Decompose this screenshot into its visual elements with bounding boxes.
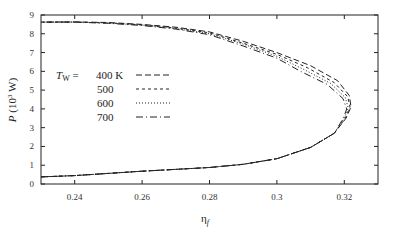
y-tick-label: 1 bbox=[30, 160, 35, 170]
legend-label-700: 700 bbox=[97, 111, 114, 123]
y-tick-label: 0 bbox=[30, 179, 35, 189]
x-tick-label: 0.26 bbox=[134, 192, 150, 202]
y-tick-label: 8 bbox=[30, 29, 35, 39]
x-axis-label: ηf bbox=[201, 212, 211, 227]
x-tick-label: 0.24 bbox=[67, 192, 83, 202]
legend-title: TW = bbox=[56, 69, 79, 83]
y-tick-label: 4 bbox=[30, 104, 35, 114]
plot-frame bbox=[41, 15, 378, 184]
series-line-600 bbox=[41, 22, 348, 177]
x-tick-label: 0.32 bbox=[336, 192, 352, 202]
y-tick-label: 2 bbox=[30, 141, 35, 151]
legend-label-600: 600 bbox=[97, 97, 114, 109]
legend-label-400: 400 K bbox=[96, 69, 123, 81]
y-tick-label: 5 bbox=[30, 85, 35, 95]
legend-label-500: 500 bbox=[97, 83, 114, 95]
x-tick-label: 0.28 bbox=[202, 192, 218, 202]
y-axis-ticks: 0123456789 bbox=[30, 10, 379, 189]
y-tick-label: 3 bbox=[30, 123, 35, 133]
y-tick-label: 6 bbox=[30, 66, 35, 76]
y-tick-label: 7 bbox=[30, 48, 35, 58]
y-tick-label: 9 bbox=[30, 10, 35, 20]
x-tick-label: 0.3 bbox=[271, 192, 283, 202]
plot-lines bbox=[41, 22, 351, 177]
series-line-400-k bbox=[41, 22, 351, 177]
y-axis-label: P (103 W) bbox=[6, 78, 19, 124]
series-line-700 bbox=[41, 22, 347, 177]
chart: 0.240.260.280.30.32 0123456789 ηf P (103… bbox=[0, 0, 394, 238]
series-line-500 bbox=[41, 22, 350, 177]
legend: TW = 400 K 500 600 700 bbox=[56, 69, 170, 123]
